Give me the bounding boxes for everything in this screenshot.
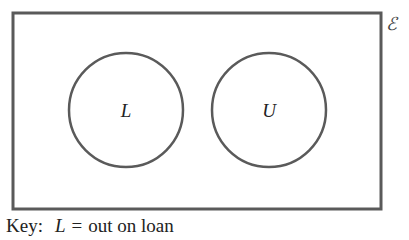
key-legend: Key:L=out on loan xyxy=(6,215,174,237)
venn-diagram: ℰ L U xyxy=(0,0,409,240)
set-u-label: U xyxy=(262,100,277,121)
key-meaning: out on loan xyxy=(88,215,174,236)
key-equals: = xyxy=(72,215,83,236)
universal-set-symbol: ℰ xyxy=(386,13,399,34)
key-variable: L xyxy=(55,215,66,236)
set-l-label: L xyxy=(120,100,132,121)
key-prefix: Key: xyxy=(6,215,43,236)
